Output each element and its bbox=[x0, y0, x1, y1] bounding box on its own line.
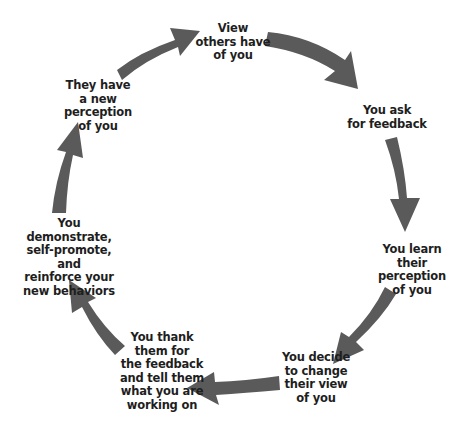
step-1-view-others-have: View others have of you bbox=[188, 22, 278, 63]
step-2-ask-for-feedback: You ask for feedback bbox=[342, 104, 432, 131]
step-3-learn-perception: You learn their perception of you bbox=[362, 243, 461, 297]
arrow-1-to-2-icon bbox=[265, 32, 358, 89]
arrow-6-to-7-icon bbox=[52, 122, 83, 213]
step-6-demonstrate: You demonstrate, self-promote, and reinf… bbox=[16, 217, 122, 298]
step-5-thank-them: You thank them for the feedback and tell… bbox=[116, 331, 208, 412]
arrow-2-to-3-icon bbox=[385, 137, 420, 232]
step-7-new-perception: They have a new perception of you bbox=[48, 79, 148, 133]
step-4-decide-to-change: You decide to change their view of you bbox=[273, 351, 359, 405]
